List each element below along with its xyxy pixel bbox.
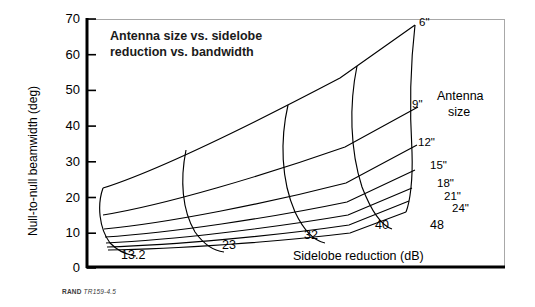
y-tick-label-40: 40 [50,118,80,133]
footer-brand: RAND [62,288,82,295]
curve-label-18in: 18" [437,177,454,189]
y-tick-label-0: 0 [50,260,80,275]
curve-label-21in: 21" [444,190,461,202]
x-tick-label-23: 23 [222,238,236,252]
y-axis [87,18,96,268]
y-tick-label-70: 70 [50,11,80,26]
y-axis-title: Null-to-null beamwidth (deg) [26,86,40,236]
legend-title-line1: Antenna [437,88,484,105]
chart-canvas [0,0,535,307]
x-tick-label-32: 32 [304,228,318,242]
x-tick-label-48: 48 [430,218,444,232]
x-axis-title: Sidelobe reduction (dB) [293,249,424,263]
curve-label-15in: 15" [430,159,447,171]
x-tick-label-13-2: 13.2 [121,248,145,262]
y-tick-label-10: 10 [50,225,80,240]
curve-label-6in: 6" [419,16,429,28]
y-tick-label-20: 20 [50,190,80,205]
y-tick-label-30: 30 [50,154,80,169]
curve-label-12in: 12" [418,136,435,148]
figure-footer: RAND TR159-4.5 [62,288,116,295]
x-tick-label-40: 40 [375,218,389,232]
legend-title-line2: size [448,104,470,121]
curve-9in [103,107,418,215]
chart-title-line1: Antenna size vs. sidelobe [110,28,262,45]
footer-id: TR159-4.5 [84,288,117,295]
figure-container: Null-to-null beamwidth (deg) 70 60 50 40… [0,0,535,307]
bandwidth-curve-48 [406,25,415,212]
curve-label-9in: 9" [412,98,422,110]
chart-title-line2: reduction vs. bandwidth [110,44,254,61]
curve-label-24in: 24" [452,202,469,214]
y-tick-label-60: 60 [50,47,80,62]
curve-24in [108,212,406,250]
y-tick-label-50: 50 [50,82,80,97]
